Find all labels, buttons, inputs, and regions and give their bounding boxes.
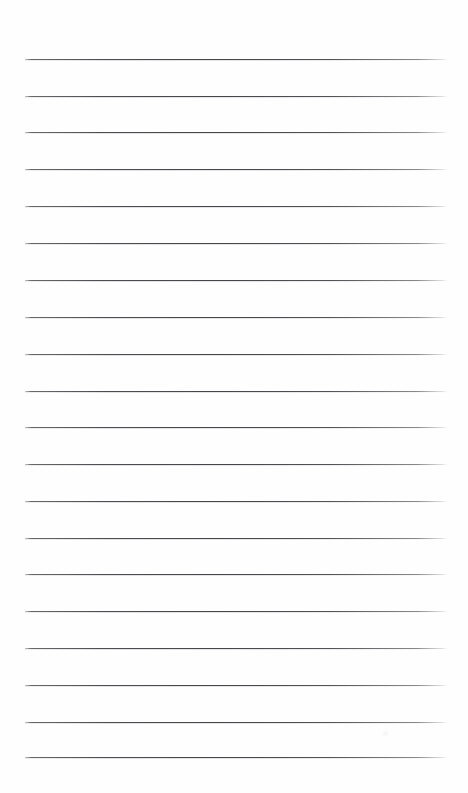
lined-paper-page <box>0 0 468 793</box>
paper-surface <box>0 0 468 793</box>
scan-smudge-artifact <box>381 730 390 737</box>
